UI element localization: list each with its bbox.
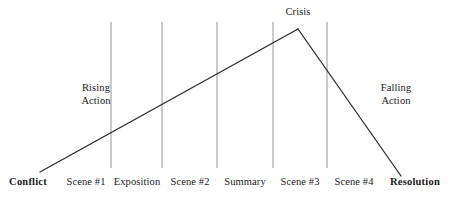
- rising-action-line: [40, 29, 298, 172]
- stage-label-summary: Summary: [224, 176, 266, 188]
- falling-action-label: FallingAction: [381, 81, 411, 107]
- stage-label-exposition: Exposition: [114, 176, 161, 188]
- stage-label-conflict: Conflict: [9, 176, 47, 188]
- stage-label-scene-4: Scene #4: [335, 176, 374, 188]
- stage-label-scene-1: Scene #1: [67, 176, 106, 188]
- crisis-label: Crisis: [285, 6, 310, 18]
- divider-lines: [111, 22, 327, 168]
- rising-action-label: RisingAction: [81, 81, 110, 107]
- stage-label-scene-2: Scene #2: [171, 176, 210, 188]
- phase-label-line2: Action: [381, 94, 411, 107]
- phase-label-line1: Falling: [381, 81, 411, 94]
- plot-structure-diagram: Crisis RisingActionFallingAction Conflic…: [0, 0, 457, 197]
- phase-label-line2: Action: [81, 94, 110, 107]
- stage-label-resolution: Resolution: [390, 176, 440, 188]
- phase-label-line1: Rising: [81, 81, 110, 94]
- stage-label-scene-3: Scene #3: [281, 176, 320, 188]
